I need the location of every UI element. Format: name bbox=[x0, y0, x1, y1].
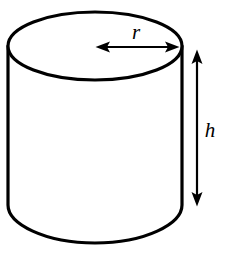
height-label: h bbox=[205, 118, 216, 142]
height-dimension-arrow bbox=[192, 50, 203, 207]
cylinder-figure-canvas: r h bbox=[0, 0, 233, 256]
radius-label: r bbox=[132, 20, 141, 44]
cylinder-diagram: r h bbox=[0, 0, 233, 256]
